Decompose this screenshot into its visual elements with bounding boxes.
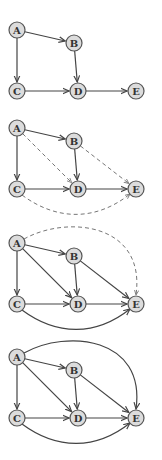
node-label: C xyxy=(13,86,21,97)
node-A: A xyxy=(9,120,25,136)
edge-A-B xyxy=(25,130,65,139)
node-label: B xyxy=(70,365,78,376)
node-C: C xyxy=(9,83,25,99)
edge-A-B xyxy=(25,245,65,254)
node-label: D xyxy=(74,413,83,424)
node-label: E xyxy=(132,86,140,97)
node-label: B xyxy=(70,38,78,49)
edge-B-E xyxy=(80,261,129,299)
node-label: A xyxy=(12,352,21,363)
graph-diagram-canvas: ABCDEABCDEABCDEABCDE xyxy=(0,0,162,460)
node-B: B xyxy=(66,133,82,149)
edge-B-D xyxy=(75,51,78,82)
node-label: C xyxy=(13,413,21,424)
graph-3: ABCDE xyxy=(9,227,144,330)
node-label: A xyxy=(12,123,21,134)
node-A: A xyxy=(9,22,25,38)
node-B: B xyxy=(66,248,82,264)
edge-B-D xyxy=(75,264,78,295)
edge-A-B xyxy=(25,359,65,368)
node-label: B xyxy=(70,136,78,147)
node-label: D xyxy=(74,299,83,310)
edge-A-D xyxy=(23,249,72,298)
node-label: D xyxy=(74,184,83,195)
edge-B-E xyxy=(80,146,129,184)
node-B: B xyxy=(66,35,82,51)
node-label: D xyxy=(74,86,83,97)
graph-4: ABCDE xyxy=(9,341,144,444)
graph-1: ABCDE xyxy=(9,22,144,99)
edge-B-E xyxy=(80,375,129,413)
node-label: A xyxy=(12,238,21,249)
edge-B-D xyxy=(75,149,78,180)
node-label: C xyxy=(13,184,21,195)
node-E: E xyxy=(128,410,144,426)
edge-A-D xyxy=(23,363,72,412)
node-label: B xyxy=(70,251,78,262)
node-label: E xyxy=(132,299,140,310)
node-C: C xyxy=(9,410,25,426)
node-E: E xyxy=(128,83,144,99)
node-label: E xyxy=(132,413,140,424)
node-E: E xyxy=(128,181,144,197)
node-D: D xyxy=(70,181,86,197)
node-label: E xyxy=(132,184,140,195)
node-C: C xyxy=(9,296,25,312)
edge-B-D xyxy=(75,378,78,409)
node-D: D xyxy=(70,83,86,99)
node-D: D xyxy=(70,296,86,312)
graph-2: ABCDE xyxy=(9,120,144,214)
node-label: C xyxy=(13,299,21,310)
edge-A-D xyxy=(23,134,72,183)
node-B: B xyxy=(66,362,82,378)
node-E: E xyxy=(128,296,144,312)
node-C: C xyxy=(9,181,25,197)
node-A: A xyxy=(9,235,25,251)
node-D: D xyxy=(70,410,86,426)
node-A: A xyxy=(9,349,25,365)
edge-A-B xyxy=(25,32,65,41)
node-label: A xyxy=(12,25,21,36)
